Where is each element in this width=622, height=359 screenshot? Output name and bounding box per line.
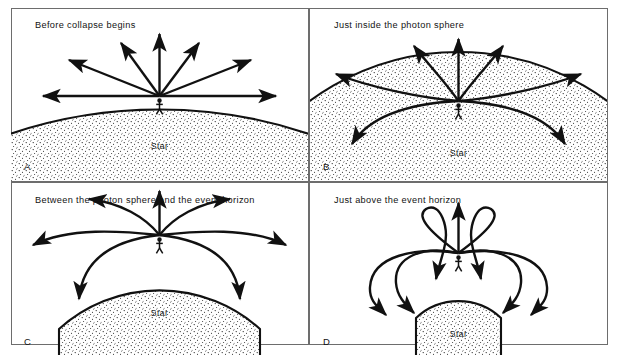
collapsing-star-light-cone-figure: Before collapse begins	[0, 0, 622, 359]
panel-d-letter: D	[323, 336, 330, 347]
light-rays-a	[43, 34, 276, 96]
observer-figure-c	[156, 238, 163, 254]
panel-b-letter: B	[323, 161, 329, 172]
panel-a-letter: A	[24, 161, 30, 172]
star-body-c	[59, 290, 260, 355]
panel-d-diagram: Star	[310, 183, 607, 355]
star-label-d: Star	[450, 329, 467, 339]
panel-b-diagram: Star	[310, 8, 607, 180]
star-label-a: Star	[151, 141, 168, 151]
panel-b: Just inside the photon sphere	[310, 8, 607, 180]
star-label-b: Star	[450, 148, 467, 158]
panel-a: Before collapse begins	[11, 8, 308, 180]
panel-c: Between the photon sphere and the event …	[11, 183, 308, 355]
panel-a-diagram: Star	[11, 8, 308, 180]
panel-c-diagram: Star	[11, 183, 308, 355]
panel-c-letter: C	[24, 336, 31, 347]
panel-d: Just above the event horizon	[310, 183, 607, 355]
star-label-c: Star	[151, 308, 168, 318]
observer-figure-d	[455, 256, 462, 272]
